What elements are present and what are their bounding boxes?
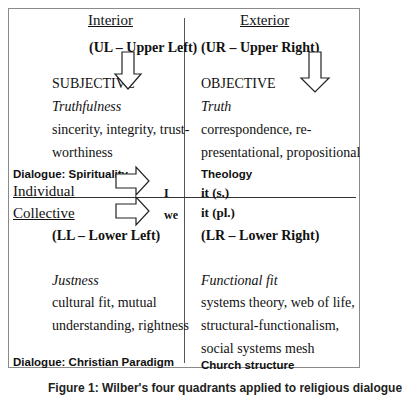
ll-validity: Justness bbox=[52, 273, 99, 289]
ur-category: OBJECTIVE bbox=[201, 76, 276, 92]
ul-code: (UL – Upper Left) bbox=[89, 40, 197, 56]
down-arrow-icon bbox=[300, 52, 330, 92]
lr-line-2: structural-functionalism, bbox=[201, 318, 339, 334]
lr-line-1: systems theory, web of life, bbox=[201, 295, 355, 311]
interior-header: Interior bbox=[88, 12, 133, 28]
ul-line-2: worthiness bbox=[52, 145, 113, 161]
ul-dialogue: Dialogue: Spirituality bbox=[13, 166, 128, 182]
ll-dialogue: Dialogue: Christian Paradigm bbox=[13, 354, 174, 370]
ll-code: (LL – Lower Left) bbox=[52, 228, 160, 244]
collective-it: it (pl.) bbox=[201, 205, 235, 221]
right-arrow-icon bbox=[116, 196, 150, 226]
exterior-header: Exterior bbox=[240, 12, 289, 28]
ul-validity: Truthfulness bbox=[52, 99, 121, 115]
lr-code: (LR – Lower Right) bbox=[201, 228, 319, 244]
lr-dialogue: Church structure bbox=[201, 357, 294, 373]
collective-label: Collective bbox=[13, 205, 75, 221]
ll-line-1: cultural fit, mutual bbox=[52, 295, 157, 311]
ur-line-1: correspondence, re- bbox=[201, 122, 311, 138]
individual-it: it (s.) bbox=[201, 185, 229, 201]
lr-validity: Functional fit bbox=[201, 273, 278, 289]
down-arrow-icon bbox=[114, 52, 142, 90]
lr-line-3: social systems mesh bbox=[201, 341, 315, 357]
ur-dialogue: Theology bbox=[201, 166, 252, 182]
individual-label: Individual bbox=[13, 183, 75, 199]
ur-line-2: presentational, propositional bbox=[201, 145, 360, 161]
collective-pronoun: we bbox=[164, 207, 178, 223]
individual-pronoun: I bbox=[164, 185, 169, 201]
ul-line-1: sincerity, integrity, trust- bbox=[52, 122, 189, 138]
ll-line-2: understanding, rightness bbox=[52, 318, 189, 334]
figure-caption: Figure 1: Wilber's four quadrants applie… bbox=[48, 381, 402, 395]
ur-validity: Truth bbox=[201, 99, 231, 115]
right-arrow-icon bbox=[116, 166, 150, 196]
vertical-divider bbox=[184, 18, 185, 363]
